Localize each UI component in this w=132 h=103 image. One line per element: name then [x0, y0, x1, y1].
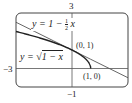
tick-label-y-max: 3 — [69, 2, 74, 11]
line-eq-prefix: y = 1 − — [32, 18, 65, 29]
radical-sign: √ — [36, 51, 42, 62]
line-equation-label: y = 1 − 12 x — [31, 18, 76, 31]
curve-eq-radicand: 1 − x — [42, 50, 63, 62]
point-label-1-0: (1, 0) — [83, 73, 100, 81]
point-label-0-1: (0, 1) — [76, 42, 93, 50]
curve-equation-label: y = √1 − x — [19, 52, 64, 62]
tick-label-x-min: −3 — [3, 65, 13, 74]
line-eq-suffix: x — [68, 18, 75, 29]
curve-eq-prefix: y = — [20, 51, 36, 62]
tick-label-y-min: −1 — [67, 90, 77, 99]
